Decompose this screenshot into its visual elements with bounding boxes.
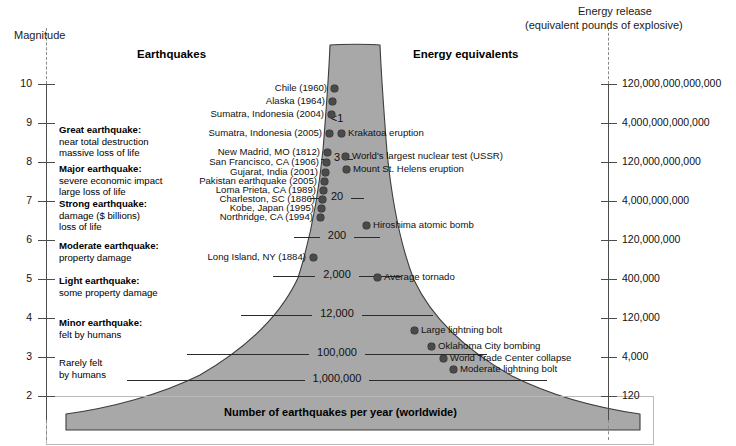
earthquake-event-dot bbox=[317, 214, 324, 221]
right-axis-dashed-extension-top bbox=[608, 28, 609, 84]
earthquakes-column-header: Earthquakes bbox=[137, 48, 206, 61]
earthquake-event-label: Sumatra, Indonesia (2005) bbox=[208, 127, 322, 138]
earthquake-event-dot bbox=[329, 98, 336, 105]
severity-class-line: damage ($ billions) bbox=[59, 210, 140, 221]
energy-equivalent-label: Moderate lightning bolt bbox=[460, 363, 557, 374]
left-tick-mark bbox=[38, 318, 55, 319]
severity-class-line: some property damage bbox=[59, 287, 158, 298]
right-tick-mark bbox=[601, 123, 617, 124]
frequency-band-rule-right bbox=[354, 237, 380, 238]
severity-class-line: near total destruction bbox=[59, 136, 149, 147]
earthquake-event-dot bbox=[321, 178, 328, 185]
severity-class-title: Minor earthquake: bbox=[59, 317, 142, 328]
earthquake-event-label: Chile (1960) bbox=[275, 82, 327, 93]
left-axis-dashed-extension-bottom bbox=[46, 420, 47, 440]
left-tick-mark bbox=[38, 201, 55, 202]
right-tick-label: 120,000,000 bbox=[622, 233, 680, 245]
frequency-band-rule-left bbox=[273, 276, 315, 277]
energy-equivalent-dot bbox=[363, 222, 370, 229]
left-tick-label: 2 bbox=[6, 389, 32, 401]
left-tick-label: 8 bbox=[6, 155, 32, 167]
frequency-band-rule-left bbox=[294, 237, 320, 238]
earthquake-event-dot bbox=[322, 169, 329, 176]
severity-class-title: Light earthquake: bbox=[59, 275, 140, 286]
energy-equivalent-label: Large lightning bolt bbox=[421, 324, 502, 335]
severity-class-title: Strong earthquake: bbox=[59, 198, 147, 209]
right-axis-title-line2: (equivalent pounds of explosive) bbox=[525, 19, 683, 32]
right-tick-mark bbox=[601, 396, 617, 397]
left-tick-mark bbox=[38, 162, 55, 163]
right-tick-mark bbox=[601, 357, 617, 358]
frequency-band-rule-left bbox=[127, 380, 305, 381]
right-tick-mark bbox=[601, 162, 617, 163]
frequency-band-rule-right bbox=[369, 380, 547, 381]
earthquake-event-dot bbox=[318, 205, 325, 212]
severity-class: Light earthquake:some property damage bbox=[59, 275, 158, 298]
earthquake-event-label: Northridge, CA (1994) bbox=[220, 211, 313, 222]
right-tick-label: 4,000,000,000,000 bbox=[622, 116, 710, 128]
severity-class: Great earthquake:near total destructionm… bbox=[59, 124, 149, 159]
right-tick-label: 120 bbox=[622, 389, 640, 401]
energy-equivalent-dot bbox=[374, 274, 381, 281]
frequency-count-label: 100,000 bbox=[314, 346, 360, 358]
left-tick-mark bbox=[38, 84, 55, 85]
left-tick-mark bbox=[38, 279, 55, 280]
earthquake-event-dot bbox=[324, 149, 331, 156]
severity-class-title: Moderate earthquake: bbox=[59, 240, 159, 251]
left-tick-mark bbox=[38, 240, 55, 241]
right-tick-label: 400,000 bbox=[622, 272, 660, 284]
severity-class: Moderate earthquake:property damage bbox=[59, 240, 159, 263]
earthquake-event-dot bbox=[320, 187, 327, 194]
earthquake-event-label: Alaska (1964) bbox=[266, 95, 325, 106]
severity-class-title: Great earthquake: bbox=[59, 124, 141, 135]
energy-equivalent-dot bbox=[428, 343, 435, 350]
left-tick-label: 5 bbox=[6, 272, 32, 284]
severity-class: Rarely feltby humans bbox=[59, 357, 106, 380]
energy-equivalent-label: Hiroshima atomic bomb bbox=[373, 219, 474, 230]
earthquake-event-dot bbox=[331, 85, 338, 92]
left-tick-mark bbox=[38, 396, 55, 397]
left-tick-label: 7 bbox=[6, 194, 32, 206]
energy-equivalent-dot bbox=[450, 366, 457, 373]
right-tick-mark bbox=[601, 279, 617, 280]
frequency-count-label: 1,000,000 bbox=[310, 372, 365, 384]
right-axis-line bbox=[608, 84, 609, 420]
severity-class: Major earthquake:severe economic impactl… bbox=[59, 163, 162, 198]
energy-equivalent-dot bbox=[411, 327, 418, 334]
energy-equivalent-dot bbox=[343, 166, 350, 173]
energy-equivalent-label: Krakatoa eruption bbox=[348, 127, 424, 138]
energy-equivalent-label: Average tornado bbox=[384, 271, 455, 282]
right-tick-label: 4,000 bbox=[622, 350, 648, 362]
energy-equivalents-column-header: Energy equivalents bbox=[413, 48, 518, 61]
left-tick-mark bbox=[38, 357, 55, 358]
left-axis-title: Magnitude bbox=[14, 29, 65, 42]
energy-equivalent-dot bbox=[440, 355, 447, 362]
left-tick-label: 6 bbox=[6, 233, 32, 245]
right-tick-mark bbox=[601, 201, 617, 202]
right-axis-dashed-extension-bottom bbox=[608, 420, 609, 440]
earthquake-event-dot bbox=[310, 254, 317, 261]
left-axis-line bbox=[46, 84, 47, 420]
earthquake-event-dot bbox=[326, 130, 333, 137]
severity-class-line: felt by humans bbox=[59, 329, 121, 340]
energy-equivalent-label: Oklahoma City bombing bbox=[438, 340, 540, 351]
left-tick-label: 4 bbox=[6, 311, 32, 323]
severity-class-line: severe economic impact bbox=[59, 175, 162, 186]
severity-class-line: loss of life bbox=[59, 221, 102, 232]
left-tick-label: 10 bbox=[6, 77, 32, 89]
severity-class-line: by humans bbox=[59, 369, 106, 380]
earthquake-event-dot bbox=[319, 196, 326, 203]
earthquake-magnitude-diagram: Magnitude 1098765432 Energy release (equ… bbox=[0, 0, 736, 446]
earthquake-event-label: Long Island, NY (1884) bbox=[208, 251, 307, 262]
frequency-band-rule-right bbox=[362, 315, 433, 316]
earthquake-event-label: Sumatra, Indonesia (2004) bbox=[210, 108, 324, 119]
right-tick-label: 120,000,000,000 bbox=[622, 155, 701, 167]
right-tick-mark bbox=[601, 318, 617, 319]
frequency-count-label: 200 bbox=[325, 229, 349, 241]
left-tick-label: 9 bbox=[6, 116, 32, 128]
left-tick-mark bbox=[38, 123, 55, 124]
energy-equivalent-label: World Trade Center collapse bbox=[450, 352, 571, 363]
frequency-count-label: 20 bbox=[328, 190, 346, 202]
energy-equivalent-dot bbox=[338, 130, 345, 137]
frequency-band-rule-right bbox=[351, 198, 364, 199]
